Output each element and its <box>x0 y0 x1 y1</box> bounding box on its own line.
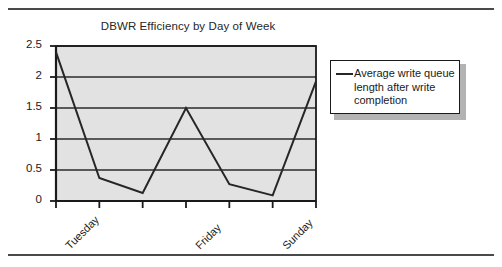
y-axis-tick-label: 2 <box>8 69 42 81</box>
plot-background <box>56 46 316 201</box>
y-axis-tick-label: 2.5 <box>8 38 42 50</box>
legend-box: Average write queue length after write c… <box>330 60 460 114</box>
legend-entry-label: Average write queue length after write c… <box>353 67 455 108</box>
figure-container: DBWR Efficiency by Day of Week 00.511.52… <box>0 0 502 267</box>
y-axis-tick-label: 1 <box>8 131 42 143</box>
plot-area <box>0 0 502 267</box>
y-axis-tick-label: 0 <box>8 193 42 205</box>
y-axis-tick-label: 0.5 <box>8 162 42 174</box>
y-axis-tick-label: 1.5 <box>8 100 42 112</box>
line-swatch-icon <box>336 73 353 75</box>
